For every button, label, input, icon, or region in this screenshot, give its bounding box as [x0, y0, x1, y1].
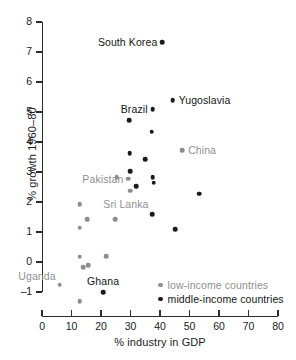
scatter-plot: –1012345678 01020304050607080 % growth 1…	[0, 0, 296, 360]
y-tick-label: 8	[10, 15, 32, 27]
y-tick-mark	[36, 291, 42, 292]
y-tick-mark	[36, 261, 42, 262]
data-point	[127, 118, 132, 123]
data-point	[77, 299, 82, 304]
y-tick-label: –1	[10, 285, 32, 297]
data-point-south-korea	[160, 40, 165, 45]
x-tick-label: 40	[148, 320, 172, 332]
y-tick-label: 0	[10, 255, 32, 267]
x-tick-mark	[159, 310, 160, 316]
point-label-south-korea: South Korea	[98, 36, 157, 48]
data-point	[86, 263, 91, 268]
data-point	[127, 151, 132, 156]
data-point	[173, 227, 178, 232]
x-axis-title: % industry in GDP	[42, 336, 278, 348]
legend-dot-icon-middle-income	[158, 297, 163, 302]
y-axis-title: % growth 1960–80	[26, 74, 38, 234]
x-tick-mark	[100, 310, 101, 316]
y-tick-mark	[36, 21, 42, 22]
x-tick-label: 0	[30, 320, 54, 332]
data-point	[143, 157, 148, 162]
data-point-uganda	[57, 282, 62, 287]
x-tick-mark	[189, 310, 190, 316]
x-tick-mark	[41, 310, 42, 316]
legend-item-low-income: low-income countries	[158, 278, 284, 292]
data-point	[77, 225, 82, 230]
data-point-china	[180, 148, 185, 153]
point-label-uganda: Uganda	[18, 270, 55, 282]
data-point-pakistan	[126, 176, 131, 181]
data-point-ghana	[101, 290, 106, 295]
data-point-yugoslavia	[170, 98, 175, 103]
data-point	[85, 217, 90, 222]
x-tick-mark	[248, 310, 249, 316]
data-point	[197, 191, 202, 196]
data-point	[77, 202, 82, 207]
x-tick-label: 70	[237, 320, 261, 332]
x-tick-label: 20	[89, 320, 113, 332]
point-label-yugoslavia: Yugoslavia	[179, 94, 231, 106]
y-axis-line	[42, 22, 43, 292]
data-point	[104, 254, 109, 259]
data-point	[114, 175, 119, 180]
x-tick-label: 30	[119, 320, 143, 332]
legend: low-income countries middle-income count…	[158, 278, 284, 306]
legend-dot-icon-low-income	[158, 283, 163, 288]
data-point	[113, 217, 118, 222]
x-tick-mark	[277, 310, 278, 316]
data-point-sri-lanka	[128, 188, 133, 193]
data-point	[149, 130, 154, 135]
x-tick-mark	[130, 310, 131, 316]
y-tick-mark	[36, 51, 42, 52]
data-point-brazil	[150, 107, 155, 112]
legend-item-middle-income: middle-income countries	[158, 292, 284, 306]
point-label-ghana: Ghana	[87, 275, 119, 287]
x-tick-label: 10	[60, 320, 84, 332]
y-tick-label: 7	[10, 45, 32, 57]
point-label-sri-lanka: Sri Lanka	[103, 198, 148, 210]
legend-label-low-income: low-income countries	[168, 279, 269, 291]
data-point	[151, 181, 156, 186]
legend-label-middle-income: middle-income countries	[168, 293, 284, 305]
data-point	[150, 212, 155, 217]
data-point	[77, 254, 82, 259]
data-point	[128, 169, 133, 174]
x-tick-mark	[218, 310, 219, 316]
x-tick-label: 60	[207, 320, 231, 332]
x-axis-line	[42, 316, 278, 317]
x-tick-label: 50	[178, 320, 202, 332]
x-tick-label: 80	[266, 320, 290, 332]
point-label-brazil: Brazil	[121, 103, 148, 115]
point-label-china: China	[188, 144, 216, 156]
data-point	[134, 184, 139, 189]
data-point	[150, 175, 155, 180]
x-tick-mark	[71, 310, 72, 316]
